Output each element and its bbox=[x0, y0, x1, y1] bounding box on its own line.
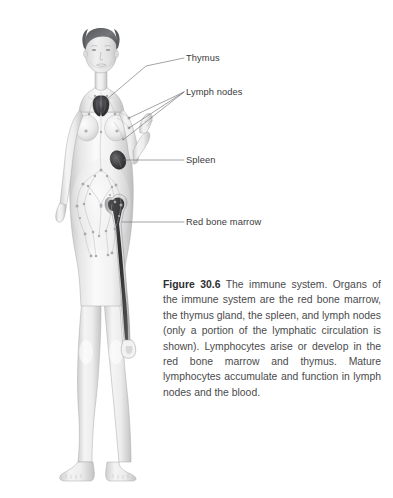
callout-label-spleen: Spleen bbox=[186, 156, 216, 165]
figure-caption-body: The immune system. Organs of the immune … bbox=[163, 279, 381, 398]
left-foot bbox=[106, 462, 136, 481]
figure-caption-number: Figure 30.6 bbox=[163, 279, 220, 290]
figure-caption: Figure 30.6 The immune system. Organs of… bbox=[163, 277, 381, 400]
callout-label-lymph-nodes: Lymph nodes bbox=[186, 88, 243, 97]
leader-line-lymph-2 bbox=[129, 92, 184, 128]
callout-label-red-bone-marrow: Red bone marrow bbox=[186, 218, 261, 227]
leader-line-lymph-3 bbox=[123, 92, 184, 140]
body-figure bbox=[56, 28, 184, 481]
leader-line-lymph-1 bbox=[129, 92, 184, 118]
neck bbox=[95, 72, 107, 90]
leader-line-thymus bbox=[106, 58, 184, 100]
figure-container: Thymus Lymph nodes Spleen Red bone marro… bbox=[0, 0, 393, 498]
right-foot bbox=[60, 462, 95, 481]
head bbox=[82, 28, 119, 73]
immune-system-illustration bbox=[0, 0, 393, 498]
callout-label-thymus: Thymus bbox=[186, 54, 220, 63]
right-hand bbox=[56, 203, 66, 222]
right-leg bbox=[78, 300, 101, 462]
